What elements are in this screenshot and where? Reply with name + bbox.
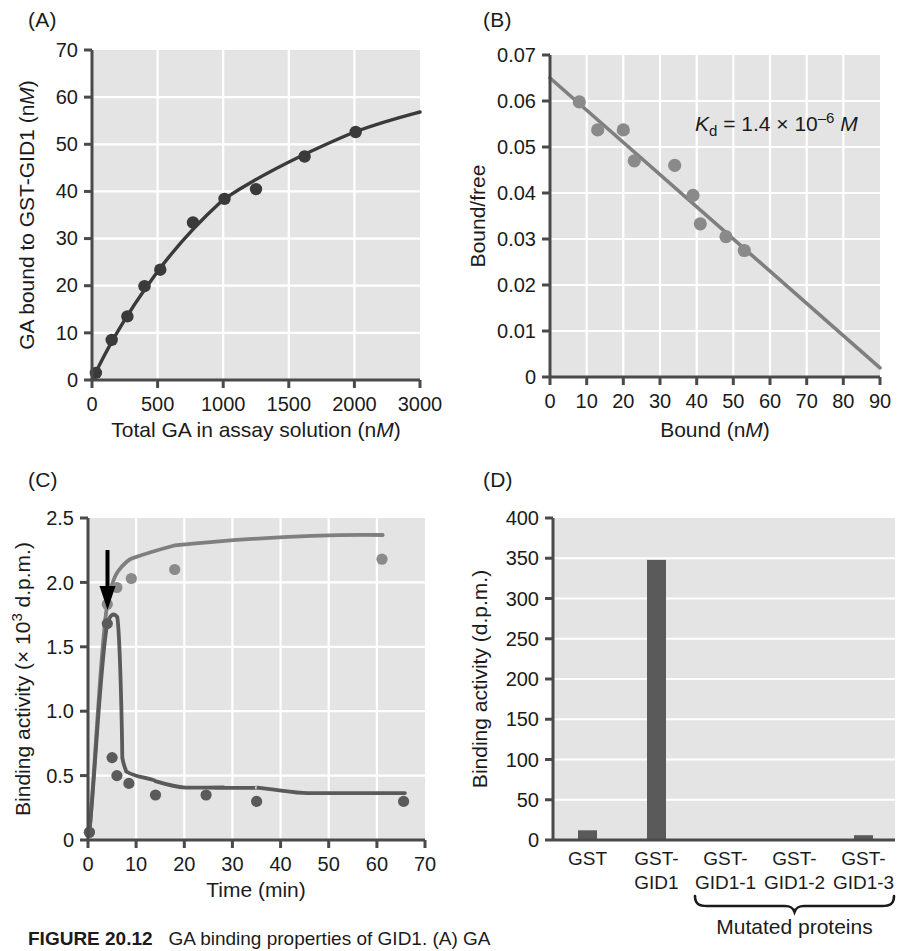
svg-text:0: 0 (63, 829, 74, 851)
panel-d-ylabel: Binding activity (d.p.m.) (468, 570, 491, 788)
x-tick-labels: 0 500 1000 1500 2000 3000 (86, 393, 442, 415)
svg-text:0: 0 (82, 853, 93, 875)
svg-text:250: 250 (506, 628, 539, 650)
svg-text:30: 30 (221, 853, 243, 875)
panel-c-plot: 2.5 2.0 1.5 1.0 0.5 0 0 10 20 30 40 50 6… (0, 440, 455, 900)
svg-text:GST-: GST- (841, 848, 885, 869)
svg-text:GID1: GID1 (634, 872, 678, 893)
panel-b-svg: 0.07 0.06 0.05 0.04 0.03 0.02 0.01 0 0 1… (455, 0, 910, 440)
panel-b-xlabel: Bound (nM) (660, 418, 770, 441)
panel-a-plot: 70 60 50 40 30 20 10 0 0 500 1000 1500 2… (0, 0, 455, 440)
svg-text:150: 150 (506, 708, 539, 730)
panel-b-plot: 0.07 0.06 0.05 0.04 0.03 0.02 0.01 0 0 1… (455, 0, 910, 440)
svg-text:60: 60 (366, 853, 388, 875)
bar-gst-gid1 (647, 560, 666, 840)
svg-text:GST-: GST- (634, 848, 678, 869)
svg-text:GST: GST (568, 848, 607, 869)
mutated-proteins-brace (695, 896, 894, 912)
svg-text:500: 500 (141, 393, 174, 415)
svg-text:1000: 1000 (201, 393, 246, 415)
panel-d: (D) (455, 440, 910, 910)
svg-text:350: 350 (506, 547, 539, 569)
panel-c-ylabel: Binding activity (× 103 d.p.m.) (8, 542, 34, 816)
panel-c-xlabel: Time (min) (206, 878, 306, 901)
svg-text:0.01: 0.01 (497, 320, 536, 342)
svg-text:GST-: GST- (772, 848, 816, 869)
svg-text:90: 90 (869, 390, 891, 412)
y-tick-labels: 0.07 0.06 0.05 0.04 0.03 0.02 0.01 0 (497, 44, 536, 388)
svg-text:0: 0 (544, 390, 555, 412)
svg-text:GID1-3: GID1-3 (833, 872, 894, 893)
panel-b-ylabel: Bound/free (466, 165, 489, 268)
svg-text:60: 60 (759, 390, 781, 412)
panel-a-ylabel: GA bound to GST-GID1 (nM) (15, 80, 38, 350)
svg-text:0.06: 0.06 (497, 90, 536, 112)
svg-text:0.02: 0.02 (497, 274, 536, 296)
svg-text:0.04: 0.04 (497, 182, 536, 204)
figure-caption-label: FIGURE 20.12 (28, 928, 153, 949)
svg-text:70: 70 (796, 390, 818, 412)
panel-a-svg: 70 60 50 40 30 20 10 0 0 500 1000 1500 2… (0, 0, 455, 440)
y-tick-labels: 2.5 2.0 1.5 1.0 0.5 0 (46, 507, 74, 851)
svg-text:40: 40 (269, 853, 291, 875)
figure-caption: FIGURE 20.12 GA binding properties of GI… (28, 928, 491, 950)
svg-text:100: 100 (506, 749, 539, 771)
svg-text:2.0: 2.0 (46, 572, 74, 594)
x-tick-labels: 0 10 20 30 40 50 60 70 80 90 (544, 390, 891, 412)
svg-text:2.5: 2.5 (46, 507, 74, 529)
svg-text:3000: 3000 (398, 393, 443, 415)
svg-text:60: 60 (56, 86, 78, 108)
svg-text:2000: 2000 (332, 393, 377, 415)
svg-text:40: 40 (56, 180, 78, 202)
panel-c-svg: 2.5 2.0 1.5 1.0 0.5 0 0 10 20 30 40 50 6… (0, 440, 455, 900)
svg-text:70: 70 (56, 39, 78, 61)
svg-text:300: 300 (506, 588, 539, 610)
svg-text:0.07: 0.07 (497, 44, 536, 66)
svg-text:20: 20 (56, 274, 78, 296)
svg-text:10: 10 (576, 390, 598, 412)
y-tick-labels: 70 60 50 40 30 20 10 0 (56, 39, 78, 391)
svg-text:40: 40 (686, 390, 708, 412)
panel-a: (A) (0, 0, 455, 440)
svg-text:400: 400 (506, 507, 539, 529)
svg-text:30: 30 (649, 390, 671, 412)
svg-text:20: 20 (612, 390, 634, 412)
svg-text:0: 0 (528, 829, 539, 851)
category-labels: GST GST-GID1 GST-GID1-1 GST-GID1-2 GST-G… (568, 848, 894, 893)
svg-text:70: 70 (414, 853, 436, 875)
mutated-proteins-label: Mutated proteins (716, 915, 872, 938)
svg-text:10: 10 (56, 322, 78, 344)
panel-c: (C) (0, 440, 455, 900)
svg-text:GID1-2: GID1-2 (764, 872, 825, 893)
svg-text:80: 80 (832, 390, 854, 412)
figure-caption-text: GA binding properties of GID1. (A) GA (168, 928, 490, 949)
svg-text:GST-: GST- (703, 848, 747, 869)
svg-text:0: 0 (67, 369, 78, 391)
svg-text:30: 30 (56, 227, 78, 249)
svg-text:50: 50 (318, 853, 340, 875)
panel-a-xlabel: Total GA in assay solution (nM) (111, 418, 400, 441)
y-tick-labels: 400 350 300 250 200 150 100 50 0 (506, 507, 539, 851)
svg-text:1.5: 1.5 (46, 636, 74, 658)
panel-d-svg: 400 350 300 250 200 150 100 50 0 GST GST… (455, 440, 910, 910)
svg-text:0.05: 0.05 (497, 136, 536, 158)
svg-text:1500: 1500 (267, 393, 312, 415)
svg-text:50: 50 (722, 390, 744, 412)
svg-text:0: 0 (525, 366, 536, 388)
panel-b: (B) (455, 0, 910, 440)
svg-text:20: 20 (173, 853, 195, 875)
svg-text:50: 50 (56, 133, 78, 155)
svg-text:10: 10 (125, 853, 147, 875)
panel-d-plot: 400 350 300 250 200 150 100 50 0 GST GST… (455, 440, 910, 910)
plot-background (92, 50, 420, 380)
x-tick-labels: 0 10 20 30 40 50 60 70 (82, 853, 436, 875)
svg-text:GID1-1: GID1-1 (695, 872, 756, 893)
svg-text:0: 0 (86, 393, 97, 415)
svg-text:50: 50 (517, 789, 539, 811)
svg-text:0.03: 0.03 (497, 228, 536, 250)
kd-annotation: Kd = 1.4 × 10–6 M (695, 109, 858, 139)
svg-text:200: 200 (506, 668, 539, 690)
svg-text:1.0: 1.0 (46, 700, 74, 722)
svg-text:0.5: 0.5 (46, 765, 74, 787)
plot-background (550, 55, 880, 377)
